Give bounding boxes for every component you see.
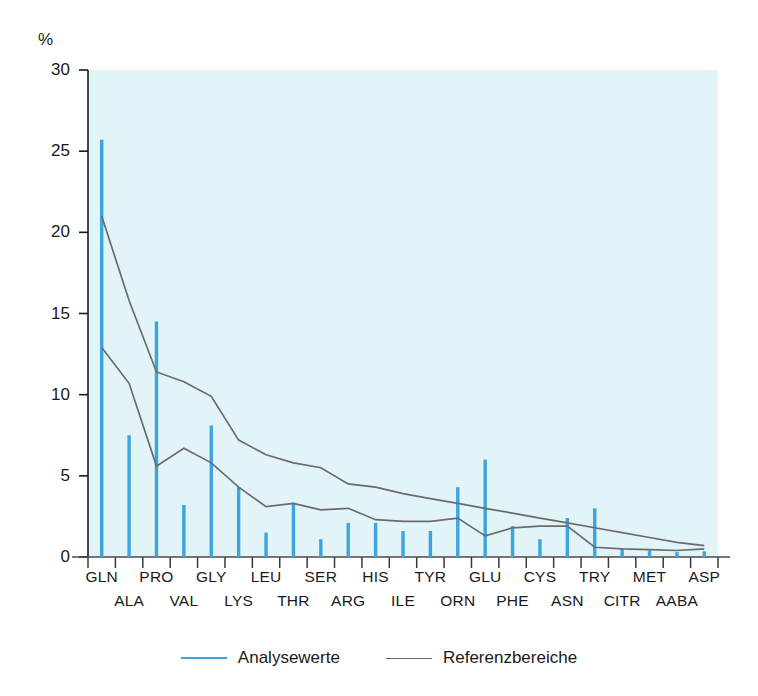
- x-tick-label: LEU: [251, 568, 282, 586]
- x-tick-label: ASN: [551, 592, 583, 610]
- x-tick-label: ORN: [440, 592, 475, 610]
- x-tick-label: THR: [277, 592, 309, 610]
- x-tick-label: TYR: [415, 568, 447, 586]
- legend-item: Referenzbereiche: [386, 648, 577, 668]
- x-tick-label: MET: [633, 568, 666, 586]
- x-tick-label: ALA: [114, 592, 144, 610]
- x-tick-label: GLN: [85, 568, 117, 586]
- x-tick-label: AABA: [656, 592, 698, 610]
- x-tick-label: CITR: [604, 592, 641, 610]
- x-tick-label: LYS: [224, 592, 253, 610]
- x-tick-label: ARG: [331, 592, 365, 610]
- x-tick-label: ILE: [391, 592, 415, 610]
- x-tick-label: GLU: [469, 568, 501, 586]
- x-tick-label: VAL: [169, 592, 198, 610]
- x-axis-ticks: [88, 557, 718, 568]
- x-tick-label: CYS: [524, 568, 556, 586]
- x-tick-label: ASP: [688, 568, 720, 586]
- legend-line-icon: [181, 657, 227, 659]
- x-tick-label: SER: [305, 568, 337, 586]
- x-tick-label: GLY: [196, 568, 226, 586]
- legend-label: Analysewerte: [238, 648, 340, 668]
- x-tick-label: PHE: [496, 592, 528, 610]
- amino-acid-profile-chart: % 051015202530 GLNALAPROVALGLYLYSLEUTHRS…: [0, 0, 758, 696]
- plot-background: [88, 70, 718, 557]
- chart-legend: AnalysewerteReferenzbereiche: [0, 648, 758, 668]
- legend-label: Referenzbereiche: [443, 648, 577, 668]
- x-tick-label: PRO: [139, 568, 173, 586]
- x-tick-label: TRY: [579, 568, 610, 586]
- x-tick-label: HIS: [362, 568, 388, 586]
- y-axis-ticks: [79, 70, 88, 557]
- legend-item: Analysewerte: [181, 648, 340, 668]
- legend-line-icon: [386, 658, 432, 659]
